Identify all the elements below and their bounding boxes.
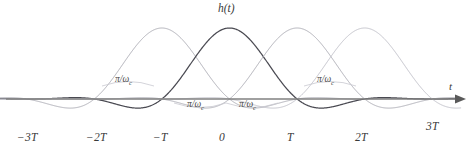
pi-omega-c-label-1: π/ωc — [187, 99, 204, 112]
pi-omega-text: π/ω — [317, 74, 331, 84]
pi-omega-text: π/ω — [239, 99, 253, 109]
subscript-c: c — [331, 79, 334, 87]
x-tick-label-1: −2T — [86, 131, 107, 143]
axis-arrow-icon — [455, 95, 466, 104]
x-axis — [6, 95, 466, 104]
curve-htt — [0, 28, 461, 108]
x-tick-label-5: 2T — [355, 131, 368, 143]
subscript-c: c — [129, 79, 132, 87]
x-axis-label: t — [449, 80, 452, 92]
pi-omega-c-label-3: π/ωc — [317, 74, 334, 87]
plot-canvas — [0, 0, 470, 155]
pi-omega-text: π/ω — [187, 99, 201, 109]
x-tick-label-3: 0 — [219, 131, 225, 143]
curve-group — [0, 28, 461, 108]
curve-htt — [0, 28, 461, 108]
subscript-c: c — [201, 104, 204, 112]
x-tick-label-4: T — [287, 131, 294, 143]
x-tick-label-2: −T — [153, 131, 168, 143]
curve-ht2t — [0, 28, 461, 108]
figure-raised-cosine-pulses: h(t) t −3T−2T−T0T2T3T π/ωcπ/ωcπ/ωcπ/ωc — [0, 0, 470, 155]
pi-omega-c-label-2: π/ωc — [239, 99, 256, 112]
plot-title: h(t) — [218, 2, 235, 14]
subscript-c: c — [253, 104, 256, 112]
pi-omega-text: π/ω — [115, 74, 129, 84]
pi-omega-c-label-0: π/ωc — [115, 74, 132, 87]
curve-ht — [0, 28, 461, 108]
x-tick-label-0: −3T — [17, 131, 38, 143]
x-tick-label-6: 3T — [426, 120, 439, 132]
